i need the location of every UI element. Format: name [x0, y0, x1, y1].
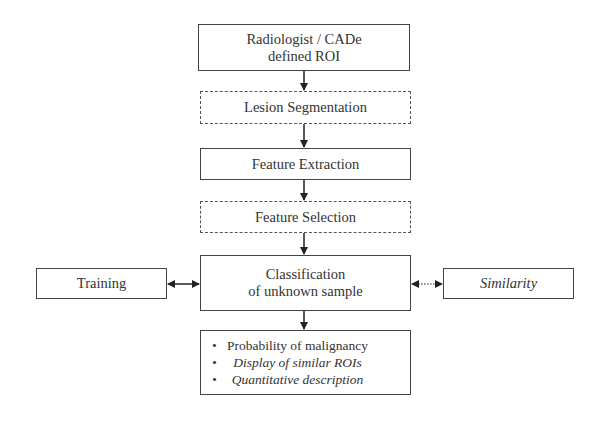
node-roi-line2: defined ROI	[268, 48, 340, 65]
node-classification-line2: of unknown sample	[248, 283, 362, 300]
node-classification: Classification of unknown sample	[200, 255, 411, 311]
node-roi-line1: Radiologist / CADe	[246, 31, 361, 48]
node-training: Training	[36, 268, 167, 299]
node-feature-extraction: Feature Extraction	[200, 148, 411, 180]
node-classification-line1: Classification	[266, 266, 346, 283]
output-item-quantitative: Quantitative description	[209, 371, 368, 388]
node-extraction-label: Feature Extraction	[252, 156, 360, 173]
output-list: Probability of malignancy Display of sim…	[201, 337, 368, 388]
output-item-similar-rois: Display of similar ROIs	[209, 354, 368, 371]
node-selection-label: Feature Selection	[255, 209, 356, 226]
node-lesion-segmentation: Lesion Segmentation	[200, 91, 411, 124]
node-similarity: Similarity	[443, 268, 574, 299]
output-item-probability: Probability of malignancy	[209, 337, 368, 354]
node-output: Probability of malignancy Display of sim…	[200, 330, 411, 395]
node-segmentation-label: Lesion Segmentation	[244, 99, 367, 116]
node-training-label: Training	[77, 275, 126, 292]
node-feature-selection: Feature Selection	[200, 201, 411, 233]
node-roi: Radiologist / CADe defined ROI	[198, 24, 410, 71]
node-similarity-label: Similarity	[480, 275, 537, 292]
